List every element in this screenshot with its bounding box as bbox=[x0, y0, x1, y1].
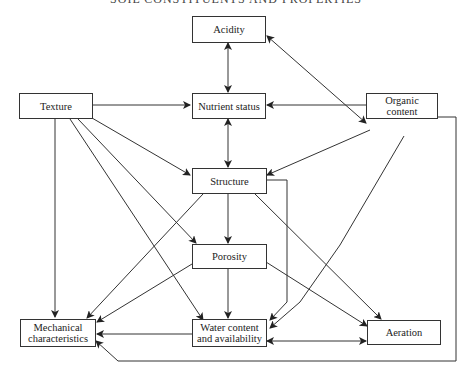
edge-organic-structure bbox=[267, 130, 370, 175]
node-organic-content: Organic content bbox=[366, 93, 438, 119]
node-water-content: Water content and availability bbox=[192, 319, 267, 347]
edge-structure-water bbox=[266, 180, 287, 320]
edge-structure-aeration bbox=[255, 194, 381, 319]
edge-porosity-aeration bbox=[266, 262, 367, 326]
edge-structure-mechanical bbox=[87, 194, 203, 318]
node-nutrient-status: Nutrient status bbox=[192, 93, 266, 119]
node-porosity: Porosity bbox=[192, 244, 267, 269]
node-texture: Texture bbox=[19, 93, 93, 119]
edge-texture-porosity bbox=[78, 119, 196, 243]
edge-organic-acidity bbox=[267, 36, 366, 123]
edge-texture-water bbox=[70, 119, 203, 320]
node-aeration: Aeration bbox=[367, 320, 441, 345]
edge-texture-structure bbox=[92, 118, 190, 175]
edge-porosity-mechanical bbox=[97, 264, 192, 322]
node-acidity: Acidity bbox=[192, 16, 266, 43]
node-structure: Structure bbox=[192, 168, 267, 194]
node-mechanical-characteristics: Mechanical characteristics bbox=[20, 319, 96, 347]
